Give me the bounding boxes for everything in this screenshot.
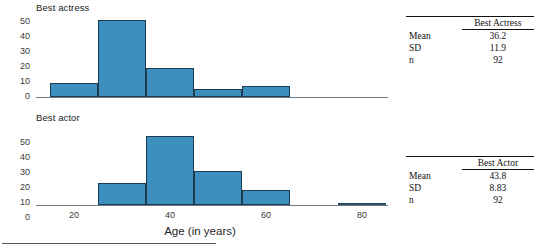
table-actress-mean-label: Mean [406,30,462,43]
ytick-actor-0: 0 [6,213,30,222]
table-actress-sd-value: 11.9 [462,42,534,54]
plot-area-actress: 50 40 30 20 10 0 [0,0,400,112]
bar-actor-25-35 [98,183,146,205]
table-row: SD 8.83 [406,182,534,194]
ytick-actress-40: 40 [6,32,30,41]
summary-table-best-actress: Best Actress Mean 36.2 SD 11.9 n 92 [406,16,534,66]
x-axis-line-actress [36,97,388,98]
table-actress-header-blank [406,17,462,30]
table-row: n 92 [406,194,534,206]
bar-actor-35-45 [146,136,194,205]
table-row: Mean 43.8 [406,170,534,183]
table-actor-header-blank [406,157,462,170]
ytick-actor-20: 20 [6,183,30,192]
bar-actor-55-65 [242,190,290,205]
table-actor-sd-label: SD [406,182,462,194]
summary-table-best-actor: Best Actor Mean 43.8 SD 8.83 n 92 [406,156,534,206]
table-row: n 92 [406,54,534,66]
x-axis-label: Age (in years) [0,225,400,237]
xtick-actor-40: 40 [158,211,182,220]
bar-actor-45-55 [194,171,242,205]
xtick-actor-20: 20 [62,211,86,220]
bar-actor-75-85 [338,203,386,205]
plot-area-actor: 50 40 30 20 10 0 20 40 60 80 Age (i [0,112,400,252]
ytick-actor-30: 30 [6,168,30,177]
table-actress-mean-value: 36.2 [462,30,534,43]
bar-actress-15-25 [50,83,98,97]
ytick-actress-30: 30 [6,47,30,56]
table-actress-header: Best Actress [462,17,534,30]
bar-actress-55-65 [242,86,290,97]
ytick-actor-40: 40 [6,153,30,162]
ytick-actor-50: 50 [6,138,30,147]
histogram-best-actress: Best actress 50 40 30 20 10 0 [0,0,400,112]
footer-divider [2,243,216,244]
charts-column: Best actress 50 40 30 20 10 0 Be [0,0,400,252]
table-actor-n-label: n [406,194,462,206]
table-actor-sd-value: 8.83 [462,182,534,194]
bar-actress-35-45 [146,68,194,97]
table-actor-mean-value: 43.8 [462,170,534,183]
ytick-actor-10: 10 [6,198,30,207]
table-actor-header: Best Actor [462,157,534,170]
x-axis-line-actor [36,205,388,206]
ytick-actress-10: 10 [6,77,30,86]
bar-actress-25-35 [98,20,146,97]
table-row: SD 11.9 [406,42,534,54]
table-actress-n-label: n [406,54,462,66]
ytick-actress-50: 50 [6,17,30,26]
ytick-actress-20: 20 [6,62,30,71]
xtick-actor-60: 60 [254,211,278,220]
table-row: Mean 36.2 [406,30,534,43]
xtick-actor-80: 80 [350,211,374,220]
table-actor-mean-label: Mean [406,170,462,183]
ytick-actress-0: 0 [6,92,30,101]
bar-actress-45-55 [194,89,242,97]
table-actor-n-value: 92 [462,194,534,206]
table-actress-sd-label: SD [406,42,462,54]
table-actress-n-value: 92 [462,54,534,66]
figure-histograms-and-summary-tables: Best actress 50 40 30 20 10 0 Be [0,0,538,252]
histogram-best-actor: Best actor 50 40 30 20 10 0 20 40 [0,112,400,252]
